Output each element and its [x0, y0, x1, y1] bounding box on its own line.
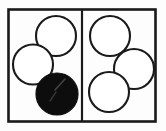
circle-right-top — [90, 16, 130, 56]
circle-left-bottom-filled — [36, 73, 78, 115]
two-panel-circle-diagram — [0, 0, 166, 131]
circle-right-bottom — [89, 72, 129, 112]
figure-container: Two-panel box diagram with six circles, … — [0, 0, 166, 131]
